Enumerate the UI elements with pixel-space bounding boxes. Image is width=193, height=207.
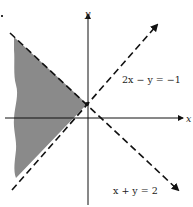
equation-label-2x-minus-y: 2x − y = −1 xyxy=(122,74,181,85)
corner-mark xyxy=(1,15,3,17)
intersection-point xyxy=(85,102,89,106)
inequality-diagram: y x 2x − y = −1 x + y = 2 xyxy=(0,0,193,207)
x-axis-label: x xyxy=(186,113,192,124)
shaded-region xyxy=(14,37,87,178)
y-axis-label: y xyxy=(84,8,91,19)
equation-label-x-plus-y: x + y = 2 xyxy=(113,185,158,196)
